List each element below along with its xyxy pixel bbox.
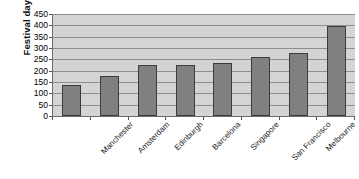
bar-slot xyxy=(53,14,91,116)
x-axis-category-labels: ManchesterAmsterdamEdinburghBarcelonaSin… xyxy=(52,120,354,178)
y-tick-label: 400 xyxy=(22,21,48,29)
y-tick-label: 150 xyxy=(22,78,48,86)
plot-area xyxy=(52,14,355,117)
y-tick-mark xyxy=(49,93,52,94)
bar xyxy=(138,65,157,116)
bar xyxy=(176,65,195,116)
y-tick-label: 350 xyxy=(22,33,48,41)
y-tick-label: 300 xyxy=(22,44,48,52)
bar-chart: Festival days 45040035030025020015010050… xyxy=(0,0,359,179)
x-tick-mark xyxy=(354,117,355,120)
y-tick-mark xyxy=(49,25,52,26)
x-axis-label: Edinburgh xyxy=(173,120,205,152)
bar xyxy=(327,26,346,116)
bar-slot xyxy=(317,14,355,116)
x-axis-label: Barcelona xyxy=(211,120,243,152)
y-tick-label: 50 xyxy=(22,101,48,109)
bar-slot xyxy=(280,14,318,116)
bar-slot xyxy=(204,14,242,116)
y-tick-mark xyxy=(49,37,52,38)
bar-slot xyxy=(242,14,280,116)
bar xyxy=(213,63,232,116)
bar-slot xyxy=(166,14,204,116)
x-axis-label: Manchester xyxy=(99,120,135,156)
bar-slot xyxy=(129,14,167,116)
y-tick-label: 100 xyxy=(22,89,48,97)
x-axis-label: San Francisco xyxy=(290,120,333,163)
x-axis-label: Singapore xyxy=(249,120,281,152)
y-tick-label: 0 xyxy=(22,112,48,120)
y-axis-tick-labels: 450400350300250200150100500 xyxy=(22,14,48,116)
x-axis-label: Amsterdam xyxy=(136,120,171,155)
bar xyxy=(289,53,308,116)
y-tick-mark xyxy=(49,82,52,83)
y-tick-mark xyxy=(49,105,52,106)
bar xyxy=(100,76,119,116)
y-tick-mark xyxy=(49,116,52,117)
bars-layer xyxy=(53,14,355,116)
bar xyxy=(251,57,270,116)
y-tick-label: 250 xyxy=(22,55,48,63)
y-tick-label: 200 xyxy=(22,67,48,75)
y-tick-mark xyxy=(49,59,52,60)
bar-slot xyxy=(91,14,129,116)
y-tick-mark xyxy=(49,71,52,72)
bar xyxy=(62,85,81,116)
y-tick-label: 450 xyxy=(22,10,48,18)
y-tick-mark xyxy=(49,14,52,15)
y-tick-mark xyxy=(49,48,52,49)
